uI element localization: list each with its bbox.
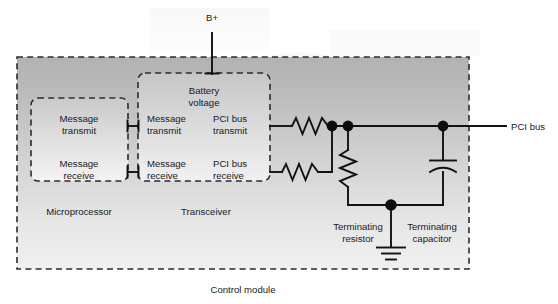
pci-bus-label: PCI bus <box>511 121 545 132</box>
micro-port-receive-line1: Message <box>60 158 99 169</box>
diagram-canvas: B+ Battery voltage Message transmit Mess… <box>0 0 558 304</box>
control-module-label: Control module <box>210 284 275 295</box>
transceiver-input-receive-line1: Message <box>147 158 186 169</box>
transceiver-output-transmit-line1: PCI bus <box>213 113 247 124</box>
micro-port-transmit-line1: Message <box>60 113 99 124</box>
transceiver-output-receive-line1: PCI bus <box>213 158 247 169</box>
junction-node-terminating-resistor <box>343 121 354 132</box>
transceiver-label: Transceiver <box>181 206 232 217</box>
transceiver-output-receive-line2: receive <box>213 170 244 181</box>
battery-voltage-label-line2: voltage <box>189 97 220 108</box>
transceiver-output-transmit-line2: transmit <box>213 125 247 136</box>
microprocessor-label: Microprocessor <box>46 206 112 217</box>
micro-port-transmit-line2: transmit <box>62 125 96 136</box>
b-plus-label: B+ <box>206 12 218 23</box>
terminating-capacitor-label-line2: capacitor <box>413 233 453 244</box>
micro-port-receive-line2: receive <box>64 170 95 181</box>
transceiver-input-receive-line2: receive <box>147 170 178 181</box>
terminating-resistor-label-line2: resistor <box>342 233 374 244</box>
terminating-resistor-label-line1: Terminating <box>333 221 383 232</box>
pci-bus-schematic: B+ Battery voltage Message transmit Mess… <box>0 0 558 304</box>
battery-voltage-label-line1: Battery <box>189 85 220 96</box>
terminating-capacitor-label-line1: Terminating <box>407 221 457 232</box>
transceiver-input-transmit-line1: Message <box>147 113 186 124</box>
transceiver-input-transmit-line2: transmit <box>147 125 181 136</box>
junction-node-terminating-capacitor <box>438 121 449 132</box>
junction-node-receive <box>327 121 338 132</box>
